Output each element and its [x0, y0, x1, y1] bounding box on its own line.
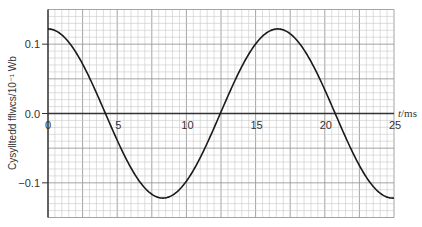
x-axis-label-unit: /ms: [401, 107, 417, 119]
x-tick-label: 0: [45, 119, 51, 131]
x-axis-label: t/ms: [398, 107, 417, 119]
x-tick-label: 5: [115, 119, 121, 131]
x-tick-label: 15: [250, 119, 262, 131]
y-tick-label: 0.1: [25, 38, 40, 50]
y-tick-label: −0.1: [18, 177, 40, 189]
x-tick-label: 20: [320, 119, 332, 131]
y-axis-label: Cysylltedd fflwcs/10⁻¹ Wb: [7, 56, 18, 170]
x-tick-label: 10: [181, 119, 193, 131]
x-tick-label: 25: [389, 119, 401, 131]
flux-linkage-chart: 05101520250.10.0−0.1 Cysylltedd fflwcs/1…: [0, 0, 422, 227]
y-tick-label: 0.0: [25, 108, 40, 120]
chart-axes: [42, 10, 394, 218]
